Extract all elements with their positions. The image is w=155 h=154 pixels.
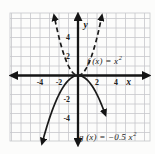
x-tick-label: -2 — [56, 78, 63, 87]
y-tick-label: 4 — [66, 33, 70, 42]
x-tick-label: 2 — [95, 78, 99, 87]
x-tick-label: -4 — [37, 78, 44, 87]
y-tick-label: -2 — [64, 95, 71, 104]
label-g: g (x) = −0.5 x2 — [79, 130, 137, 141]
graph-svg: -4-22442-2-4xyf (x) = x2g (x) = −0.5 x2 — [0, 0, 155, 154]
figure: -4-22442-2-4xyf (x) = x2g (x) = −0.5 x2 — [0, 0, 155, 154]
y-tick-label: -4 — [64, 114, 71, 123]
label-f: f (x) = x2 — [87, 54, 123, 65]
y-axis-label: y — [82, 20, 88, 30]
x-tick-label: 4 — [114, 78, 118, 87]
x-axis-label: x — [125, 77, 131, 87]
